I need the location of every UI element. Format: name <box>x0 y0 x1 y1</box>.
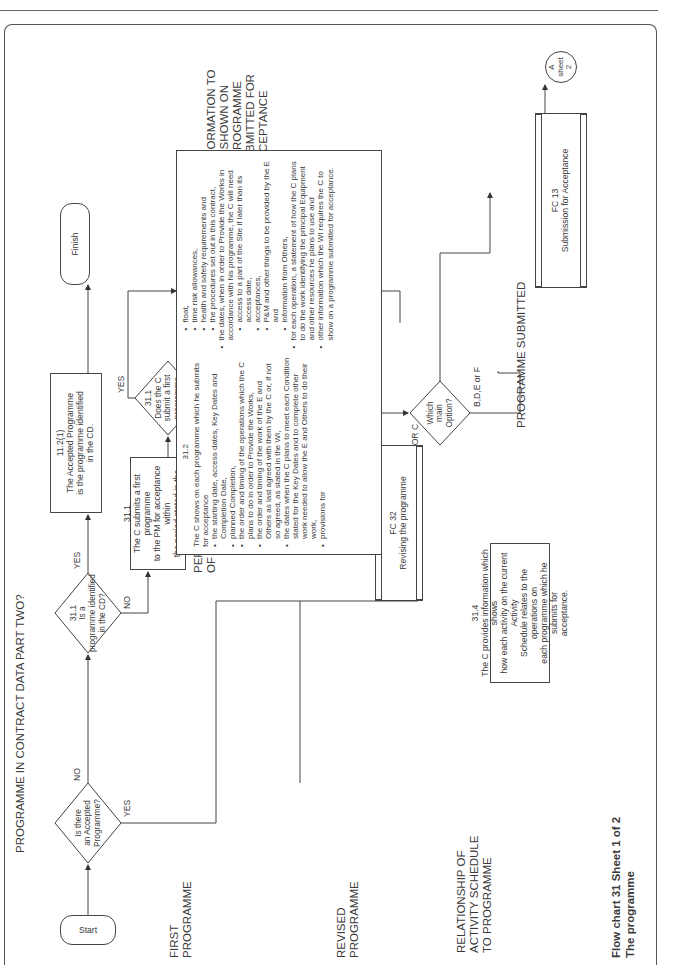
start-label: Start <box>79 925 97 935</box>
section-label-programme-submitted: PROGRAMME SUBMITTED <box>515 282 528 428</box>
finish-label: Finish <box>70 233 80 256</box>
section-label-first-programme: FIRST PROGRAMME <box>168 881 194 958</box>
fc13-top-band <box>535 114 542 287</box>
box-31-2-ref: 31.2 <box>181 357 190 548</box>
decision-accepted-programme: Is there an Accepted Programme? <box>70 788 106 858</box>
start-terminal: Start <box>60 915 116 945</box>
box-accepted-programme-11-2: 11.2(1) The Accepted Programme is the pr… <box>50 373 102 513</box>
edge-label-in-time-yes: YES <box>116 376 126 393</box>
flowchart-canvas: PROGRAMME IN CONTRACT DATA PART TWO? FIR… <box>0 0 700 973</box>
edge-label-accepted-no: NO <box>72 768 82 781</box>
decision-programme-identified: 31.1 Is a programme identified in the CD… <box>66 571 110 655</box>
caption-title: Flow chart 31 Sheet 1 of 2 <box>610 817 624 958</box>
connector-a-sheet-2[interactable]: A sheet 2 <box>545 51 577 83</box>
edge-label-accepted-yes: YES <box>122 800 132 817</box>
box-activity-schedule-31-4: 31.4 The C provides information which sh… <box>490 543 550 683</box>
figure-caption: Flow chart 31 Sheet 1 of 2 The programme <box>610 817 638 958</box>
fc13-submission-for-acceptance: FC 13 Submission for Acceptance <box>535 113 587 288</box>
box-31-2-intro: The C shows on each programme which he s… <box>192 357 210 548</box>
finish-terminal: Finish <box>60 203 90 285</box>
fc32-revising-programme: FC 32 Revising the programme <box>375 445 423 601</box>
edge-label-identified-no: NO <box>122 596 132 609</box>
section-label-revised-programme: REVISED PROGRAMME <box>335 881 361 958</box>
fc13-bottom-band <box>580 114 587 287</box>
section-label-relationship: RELATIONSHIP OF ACTIVITY SCHEDULE TO PRO… <box>455 836 494 953</box>
edge-label-option-bdef: B,D,E or F <box>472 367 482 407</box>
section-label-programme-in-cd: PROGRAMME IN CONTRACT DATA PART TWO? <box>14 594 27 853</box>
box-information-31-2: 31.2 The C shows on each programme which… <box>176 150 382 555</box>
edge-label-identified-yes: YES <box>72 552 82 569</box>
caption-subtitle: The programme <box>624 817 638 958</box>
fc32-bottom-band <box>416 446 423 600</box>
decision-main-option: Which main Option? <box>422 385 458 441</box>
